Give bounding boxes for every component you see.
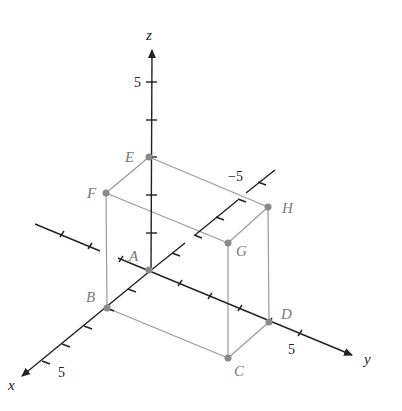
point-c [225, 355, 232, 362]
point-g [225, 240, 232, 247]
point-f [103, 190, 110, 197]
label-c: C [234, 363, 245, 379]
label-g: G [236, 243, 247, 259]
y-tick-neg5: −5 [228, 169, 243, 184]
label-d: D [280, 306, 292, 322]
z-axis-label: z [145, 27, 152, 43]
label-h: H [281, 200, 294, 216]
3d-box-diagram: z x y 5 5 5 −5 A B C D E F G H [0, 0, 402, 411]
z-axis [146, 50, 157, 271]
point-d [266, 319, 273, 326]
y-axis [35, 224, 352, 355]
point-a [146, 267, 153, 274]
y-axis-label: y [362, 351, 371, 367]
box-vertices [103, 154, 273, 362]
point-e [146, 154, 153, 161]
x-axis-label: x [7, 377, 15, 393]
label-b: B [86, 289, 95, 305]
y-tick-5: 5 [288, 342, 295, 357]
label-e: E [124, 149, 134, 165]
z-tick-5: 5 [134, 75, 141, 90]
point-b [104, 305, 111, 312]
label-a: A [128, 248, 139, 264]
label-f: F [86, 185, 97, 201]
x-tick-5: 5 [58, 365, 65, 380]
point-h [265, 204, 272, 211]
